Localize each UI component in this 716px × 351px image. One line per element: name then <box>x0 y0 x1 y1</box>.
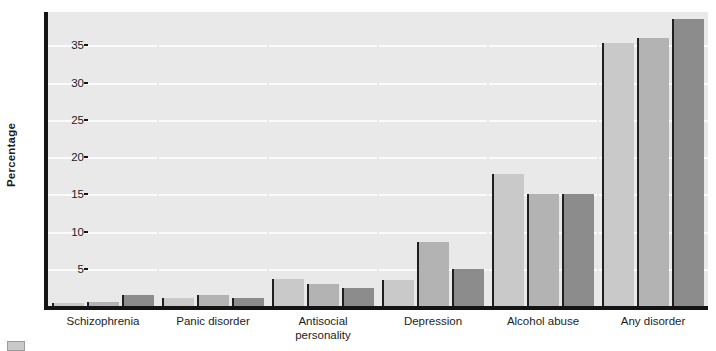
legend <box>7 341 25 351</box>
x-axis-category-label: Panic disorder <box>158 314 268 328</box>
bar <box>197 295 229 306</box>
y-axis-tick-mark <box>84 156 88 158</box>
bar <box>492 174 524 306</box>
bar <box>122 295 154 306</box>
bar <box>452 269 484 306</box>
bar <box>562 194 594 306</box>
bar-group <box>598 12 708 306</box>
group-separator <box>157 12 159 306</box>
y-axis-tick-label: 20 <box>44 151 84 163</box>
bar <box>602 43 634 306</box>
bar-group <box>268 12 378 306</box>
x-axis-category-label: Alcohol abuse <box>488 314 598 328</box>
y-axis-tick-label: 10 <box>44 226 84 238</box>
x-axis-category-label: Schizophrenia <box>48 314 158 328</box>
bar <box>87 302 119 306</box>
bar <box>417 242 449 306</box>
bar <box>162 298 194 306</box>
x-axis-category-label-line: Depression <box>378 314 488 328</box>
y-axis-tick-labels: 5101520253035 <box>42 12 84 306</box>
y-axis-tick-label: 5 <box>44 263 84 275</box>
y-axis-tick-mark <box>84 193 88 195</box>
x-axis-category-label-line: Schizophrenia <box>48 314 158 328</box>
x-axis-category-label-line: personality <box>268 328 378 342</box>
y-axis-tick-label: 35 <box>44 39 84 51</box>
plot-frame: 5101520253035 <box>44 12 708 310</box>
x-axis-category-label: Depression <box>378 314 488 328</box>
bar <box>307 284 339 306</box>
y-axis-tick-mark <box>84 44 88 46</box>
group-separator <box>377 12 379 306</box>
bar-group <box>378 12 488 306</box>
bar <box>232 298 264 306</box>
x-axis-category-label-line: Any disorder <box>598 314 708 328</box>
bar <box>637 38 669 306</box>
x-axis-category-label-line: Alcohol abuse <box>488 314 598 328</box>
bar <box>672 19 704 306</box>
y-axis-tick-mark <box>84 119 88 121</box>
y-axis-tick-label: 30 <box>44 77 84 89</box>
y-axis-title-text: Percentage <box>5 123 17 187</box>
y-axis-tick-label: 25 <box>44 114 84 126</box>
y-axis-tick-mark <box>84 268 88 270</box>
x-axis-category-label-line: Panic disorder <box>158 314 268 328</box>
y-axis-tick-mark <box>84 82 88 84</box>
bar <box>272 279 304 306</box>
x-axis-line <box>44 306 708 310</box>
group-separator <box>597 12 599 306</box>
x-axis-category-labels: SchizophreniaPanic disorderAntisocialper… <box>48 314 708 350</box>
bar-group <box>488 12 598 306</box>
group-separator <box>487 12 489 306</box>
y-axis-title: Percentage <box>0 0 22 310</box>
legend-swatch-icon <box>7 341 25 351</box>
bar <box>527 194 559 306</box>
bar-group <box>158 12 268 306</box>
y-axis-tick-mark <box>84 231 88 233</box>
y-axis-tick-label: 15 <box>44 188 84 200</box>
group-separator <box>267 12 269 306</box>
x-axis-category-label: Antisocialpersonality <box>268 314 378 342</box>
x-axis-category-label: Any disorder <box>598 314 708 328</box>
bar <box>382 280 414 306</box>
x-axis-category-label-line: Antisocial <box>268 314 378 328</box>
bar <box>342 288 374 306</box>
bar-chart-figure: Percentage 5101520253035 SchizophreniaPa… <box>0 0 716 351</box>
plot-area <box>48 12 708 306</box>
